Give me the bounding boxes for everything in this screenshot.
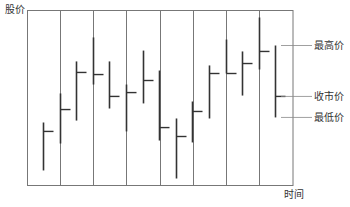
annotation-close: 收市价 [281,90,344,102]
x-axis-label: 时间 [284,188,304,200]
price-bar [144,51,154,104]
annotation-label: 最低价 [314,111,344,123]
price-bar [276,46,286,118]
price-bar [260,18,270,70]
annotation-label: 收市价 [314,90,344,102]
price-bar [77,61,87,120]
annotation-high: 最高价 [281,39,344,51]
ohlc-chart: 最高价收市价最低价 股价 时间 [0,0,350,207]
price-bar [44,123,54,171]
price-bar [227,40,237,74]
annotation-label: 最高价 [314,39,344,51]
price-bar [110,61,120,108]
price-bar [61,93,71,143]
price-bars [44,18,286,179]
price-bar [94,37,104,84]
annotations: 最高价收市价最低价 [281,39,344,123]
price-bar [127,85,137,132]
price-bar [210,65,220,118]
price-bar [243,51,253,95]
y-axis-label: 股价 [5,4,25,15]
annotation-low: 最低价 [281,111,344,123]
price-bar [177,118,187,178]
